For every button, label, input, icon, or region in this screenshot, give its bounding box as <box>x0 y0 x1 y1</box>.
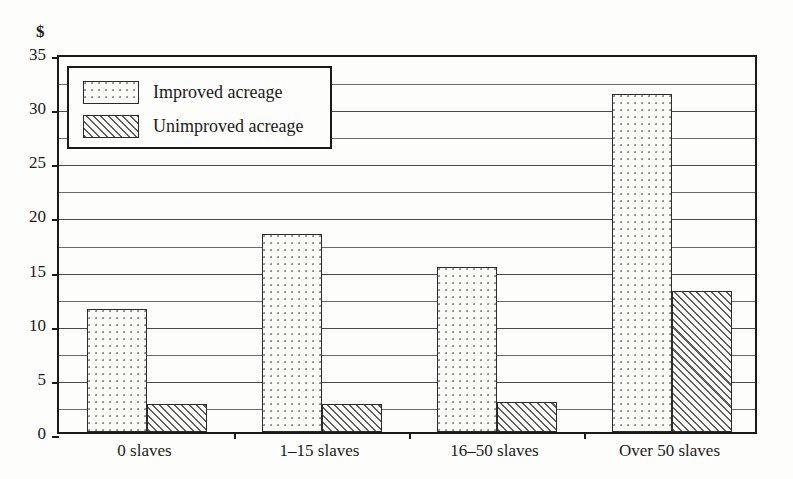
x-axis-tick-mark <box>584 432 586 439</box>
bar-improved-1 <box>262 234 322 432</box>
x-axis-label-0: 0 slaves <box>57 441 232 461</box>
x-axis-label-2: 16–50 slaves <box>407 441 582 461</box>
bar-unimproved-3 <box>672 291 732 432</box>
legend-swatch-improved-icon <box>83 81 139 104</box>
y-axis-tick-mark <box>52 165 59 167</box>
y-axis-tick-label: 5 <box>0 371 46 388</box>
bar-unimproved-1 <box>322 404 382 432</box>
x-axis-label-1: 1–15 slaves <box>232 441 407 461</box>
y-axis-tick-mark <box>52 328 59 330</box>
legend-swatch-unimproved-icon <box>83 115 139 138</box>
y-axis-tick-label: 0 <box>0 425 46 442</box>
bar-improved-0 <box>87 309 147 432</box>
y-axis-tick-mark <box>52 382 59 384</box>
y-axis-tick-label: 30 <box>0 100 46 117</box>
bar-unimproved-2 <box>497 402 557 432</box>
y-axis-unit-label: $ <box>36 22 45 42</box>
chart-figure: $ Improved acreage Unimproved acreage 05… <box>0 0 793 479</box>
legend-item-improved: Improved acreage <box>83 77 330 108</box>
legend-item-unimproved: Unimproved acreage <box>83 111 330 142</box>
y-axis-tick-label: 35 <box>0 46 46 63</box>
bar-improved-2 <box>437 267 497 432</box>
y-axis-tick-mark <box>52 111 59 113</box>
chart-legend: Improved acreage Unimproved acreage <box>67 66 332 149</box>
legend-label-unimproved: Unimproved acreage <box>153 116 303 137</box>
bar-improved-3 <box>612 94 672 432</box>
y-axis-tick-mark <box>52 274 59 276</box>
y-axis-tick-label: 10 <box>0 317 46 334</box>
y-axis-tick-label: 20 <box>0 208 46 225</box>
y-axis-tick-label: 15 <box>0 263 46 280</box>
x-axis-tick-mark <box>409 432 411 439</box>
bar-unimproved-0 <box>147 404 207 432</box>
y-axis-tick-label: 25 <box>0 154 46 171</box>
x-axis-tick-mark <box>234 432 236 439</box>
y-axis-tick-mark <box>52 57 59 59</box>
y-axis-tick-mark <box>52 219 59 221</box>
legend-label-improved: Improved acreage <box>153 82 282 103</box>
y-axis-tick-mark <box>52 436 59 438</box>
x-axis-label-3: Over 50 slaves <box>582 441 757 461</box>
